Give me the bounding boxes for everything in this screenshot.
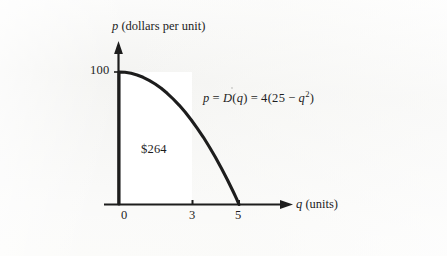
y-tick-label-100: 100 <box>90 64 109 77</box>
scan-speck <box>231 87 233 89</box>
equation-equals-1: = <box>210 91 223 105</box>
equation-equals-2: = <box>248 91 261 105</box>
x-axis-variable: q <box>296 197 302 211</box>
demand-curve-plot <box>0 0 447 256</box>
shaded-region-label: $264 <box>141 143 167 156</box>
x-tick-label-5: 5 <box>235 209 241 222</box>
x-axis-label: q (units) <box>296 198 338 211</box>
equation-minus-sign: − <box>285 91 298 105</box>
shaded-region-rect <box>119 72 192 204</box>
x-tick-label-0: 0 <box>121 209 127 222</box>
equation-function-name: D <box>223 91 232 105</box>
figure-container: p (dollars per unit) q (units) 100 0 3 5… <box>0 0 447 256</box>
y-axis-variable: p <box>112 19 118 33</box>
y-axis-arrowhead <box>114 41 123 54</box>
equation-lhs: p <box>203 91 210 105</box>
x-axis-unit-text: (units) <box>305 197 338 211</box>
equation-coefficient: 4(25 <box>261 91 285 105</box>
y-axis-unit-text: (dollars per unit) <box>121 19 205 33</box>
x-axis-arrowhead <box>280 200 293 209</box>
x-tick-label-3: 3 <box>189 209 195 222</box>
y-axis-label: p (dollars per unit) <box>112 20 205 33</box>
equation-final-paren: ) <box>310 91 314 105</box>
curve-equation-label: p=D(q)=4(25−q2) <box>203 92 314 105</box>
